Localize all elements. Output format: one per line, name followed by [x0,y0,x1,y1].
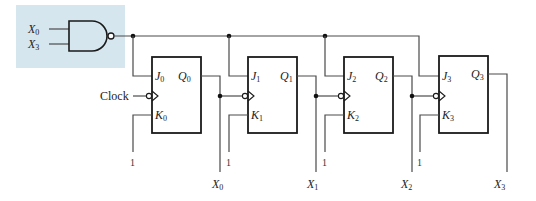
nand-bubble [108,33,114,39]
j1-wire [229,36,248,76]
clock-label: Clock [100,89,129,103]
q2-output-wire [393,76,412,172]
k1-wire [229,115,248,152]
junction-dot [218,94,223,99]
k1-constant: 1 [226,157,231,168]
k0-wire [133,115,152,152]
output-x0-label: X0 [211,177,223,192]
q0-output-wire [201,76,220,172]
j2-wire [325,36,344,76]
q1-output-wire [297,76,316,172]
circuit-diagram: X0 X3 Clock 1 1 [0,0,536,201]
k2-constant: 1 [322,157,327,168]
junction-dot [314,94,319,99]
output-x2-label: X2 [400,177,412,192]
junction-dot [410,94,415,99]
k3-wire [420,115,439,152]
q3-output-wire [488,74,507,172]
nand-gate [69,21,107,51]
k0-constant: 1 [130,157,135,168]
k2-wire [325,115,344,152]
k3-constant: 1 [417,157,422,168]
circuit-svg: X0 X3 Clock 1 1 [0,0,536,201]
output-x1-label: X1 [306,177,318,192]
output-x3-label: X3 [493,177,505,192]
j0-wire [133,36,152,76]
